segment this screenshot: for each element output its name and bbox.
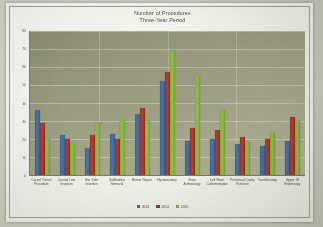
y-axis-tick: 60 <box>22 65 26 69</box>
bar-2013[interactable] <box>260 146 265 175</box>
bar-2013[interactable] <box>135 114 140 175</box>
bar-2015[interactable] <box>95 123 100 175</box>
bar-cluster <box>105 31 130 175</box>
bar-chart: Number of Procedures Three-Year Period 0… <box>15 9 310 217</box>
bar-2014[interactable] <box>90 135 95 175</box>
legend-label: 2015 <box>181 205 189 209</box>
legend-item-2015[interactable]: 2015 <box>176 205 189 209</box>
legend-item-2013[interactable]: 2013 <box>137 205 150 209</box>
bar-cluster <box>180 31 205 175</box>
bar-2013[interactable] <box>110 134 115 175</box>
bar-2015[interactable] <box>70 144 75 175</box>
x-axis-label: Gallbladder Removal <box>104 176 129 197</box>
legend-swatch-icon <box>137 205 140 208</box>
bar-2015[interactable] <box>220 110 225 175</box>
bar-2015[interactable] <box>120 119 125 175</box>
x-axis-label: Carpal Tunnel Procedure <box>29 176 54 197</box>
bar-cluster <box>230 31 255 175</box>
y-axis-tick: 30 <box>22 120 26 124</box>
printed-sheet: Number of Procedures Three-Year Period 0… <box>6 3 313 222</box>
y-axis-tick: 50 <box>22 83 26 87</box>
bar-2014[interactable] <box>115 139 120 175</box>
x-axis-label: Hysterectomy <box>154 176 179 197</box>
bar-2014[interactable] <box>290 117 295 175</box>
bar-2014[interactable] <box>265 139 270 175</box>
bar-cluster <box>30 31 55 175</box>
chart-legend: 201320142015 <box>15 202 310 211</box>
x-axis-label: Upper GI Endoscopy <box>280 176 305 197</box>
bar-2013[interactable] <box>160 81 165 175</box>
bar-2014[interactable] <box>140 108 145 175</box>
bar-cluster <box>280 31 305 175</box>
x-axis-label: Hernia Repair <box>129 176 154 197</box>
bar-cluster <box>130 31 155 175</box>
bar-2014[interactable] <box>40 123 45 175</box>
y-axis-tick: 80 <box>22 29 26 33</box>
y-axis-tick: 0 <box>24 174 26 178</box>
x-axis-label: Ear Tube Insertion <box>79 176 104 197</box>
bar-2015[interactable] <box>170 51 175 175</box>
x-axis-label: Left Heart Catheterization <box>205 176 230 197</box>
bar-cluster <box>55 31 80 175</box>
bar-2013[interactable] <box>35 110 40 175</box>
bar-2015[interactable] <box>195 76 200 175</box>
y-axis-tick: 20 <box>22 138 26 142</box>
legend-label: 2013 <box>142 205 150 209</box>
y-axis-tick: 10 <box>22 156 26 160</box>
bar-2015[interactable] <box>45 139 50 175</box>
legend-swatch-icon <box>156 205 159 208</box>
photo-page: Number of Procedures Three-Year Period 0… <box>0 0 323 227</box>
y-axis-tick: 70 <box>22 47 26 51</box>
x-axis-label: Central Line Insertion <box>54 176 79 197</box>
bar-2013[interactable] <box>85 148 90 175</box>
y-axis-tick: 40 <box>22 102 26 106</box>
bar-2015[interactable] <box>270 132 275 175</box>
bar-2015[interactable] <box>245 141 250 175</box>
bar-2014[interactable] <box>240 137 245 175</box>
x-axis-label: Peritoneal Cavity Puncture <box>230 176 255 197</box>
legend-item-2014[interactable]: 2014 <box>156 205 169 209</box>
bar-2013[interactable] <box>60 135 65 175</box>
bar-clusters <box>30 31 305 175</box>
bar-cluster <box>205 31 230 175</box>
bar-2013[interactable] <box>210 139 215 175</box>
bar-cluster <box>80 31 105 175</box>
chart-title-block: Number of Procedures Three-Year Period <box>15 10 310 23</box>
y-axis: 01020304050607080 <box>15 31 28 176</box>
bar-2014[interactable] <box>215 130 220 175</box>
legend-label: 2014 <box>161 205 169 209</box>
bar-2014[interactable] <box>190 128 195 175</box>
bar-cluster <box>255 31 280 175</box>
x-axis-label: Tonsillectomy <box>255 176 280 197</box>
chart-subtitle: Three-Year Period <box>15 17 310 24</box>
x-axis-label: Knee Arthroscopy <box>180 176 205 197</box>
plot-area <box>29 31 305 176</box>
bar-2014[interactable] <box>65 139 70 175</box>
bar-2013[interactable] <box>185 141 190 175</box>
bar-2013[interactable] <box>235 144 240 175</box>
bar-2014[interactable] <box>165 72 170 175</box>
bar-2013[interactable] <box>285 141 290 175</box>
legend-swatch-icon <box>176 205 179 208</box>
bar-2015[interactable] <box>295 121 300 175</box>
x-axis-labels: Carpal Tunnel ProcedureCentral Line Inse… <box>29 176 305 197</box>
bar-2015[interactable] <box>145 121 150 175</box>
bar-cluster <box>155 31 180 175</box>
